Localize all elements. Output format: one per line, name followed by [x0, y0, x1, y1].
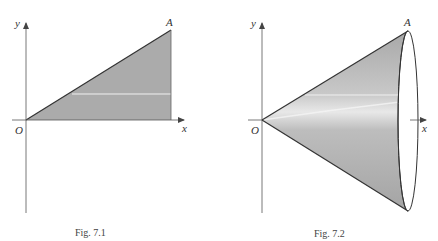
- figure-7-2: y x O A Fig. 7.2: [248, 16, 427, 239]
- figure-caption: Fig. 7.2: [314, 228, 345, 239]
- y-axis-label: y: [250, 17, 256, 29]
- x-axis-label: x: [421, 122, 427, 134]
- point-a-label: A: [403, 16, 411, 28]
- figure-7-1: y x O A Fig. 7.1: [12, 16, 187, 238]
- origin-label: O: [15, 124, 23, 136]
- figure-caption: Fig. 7.1: [75, 227, 106, 238]
- origin-label: O: [251, 124, 259, 136]
- x-axis-label: x: [181, 122, 187, 134]
- point-a-label: A: [165, 16, 173, 28]
- cone-surface: [262, 31, 408, 211]
- figure-canvas: y x O A Fig. 7.1 y x O A Fig. 7.2: [0, 0, 438, 241]
- y-axis-label: y: [14, 17, 20, 29]
